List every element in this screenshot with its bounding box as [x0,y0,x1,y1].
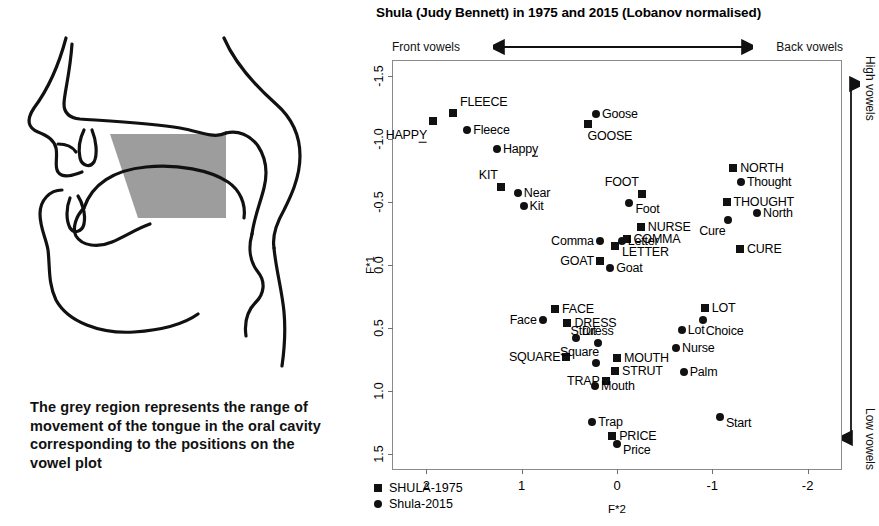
x-axis-tick-label: 0 [613,478,620,493]
front-back-arrow-icon [493,38,753,56]
point-label-mouth: Mouth [601,380,635,393]
y-axis-tick-label: 1.0 [372,382,386,399]
data-point-near [514,189,522,197]
data-point-goat [606,264,614,272]
data-point-mouth [591,382,599,390]
data-point-nurse [637,223,645,231]
data-point-happy [429,117,437,125]
point-label-square: SQUARE [509,351,561,364]
data-point-trap [588,418,596,426]
data-point-goat [596,257,604,265]
point-label-lot: Lot [688,324,705,337]
data-point-north [753,209,761,217]
point-label-comma: Comma [551,235,594,248]
legend-item-1975: SHULA-1975 [374,480,463,496]
x-axis-tick-mark [712,469,713,474]
data-point-north [729,164,737,172]
underlined-char: Y [419,128,427,143]
point-label-face: FACE [562,303,594,316]
point-label-north: NORTH [740,162,783,175]
plot-points-layer: HAPPYFLEECEKITGOOSEFOOTNORTHTHOUGHTCUREN… [393,61,841,469]
data-point-price [613,440,621,448]
data-point-lot [701,304,709,312]
x-axis-tick-mark [522,469,523,474]
point-label-kit: KIT [479,169,498,182]
x-axis-tick-mark [426,469,427,474]
grey-vowel-space-region [110,134,226,218]
upper-teeth-outline [79,130,96,165]
y-axis-tick-label: 0.5 [372,319,386,336]
vowel-plot-panel: Shula (Judy Bennett) in 1975 and 2015 (L… [360,0,879,526]
point-label-foot: Foot [635,203,659,216]
data-point-kit [520,202,528,210]
x-axis-tick-label: -1 [707,478,719,493]
y-axis-tick-mark [388,265,393,266]
data-point-strut [611,367,619,375]
data-point-palm [680,368,688,376]
point-label-price: Price [623,444,650,457]
y-axis-tick-label: -0.5 [372,191,386,213]
point-label-square: Square [560,346,599,359]
point-label-goose: GOOSE [587,130,632,143]
circle-marker-icon [374,500,382,508]
nasal-cavity-outline [64,44,226,135]
square-marker-icon [374,484,382,492]
point-label-north: North [763,207,793,220]
point-label-foot: FOOT [605,176,639,189]
data-point-happy [493,145,501,153]
y-axis-tick-label: -1.0 [372,128,386,150]
data-point-face [539,316,547,324]
point-label-strut: STRUT [622,365,663,378]
point-label-trap: Trap [598,416,622,429]
data-point-cure [736,245,744,253]
point-label-kit: Kit [530,200,544,213]
back-vowels-label: Back vowels [776,40,843,54]
point-label-thought: Thought [747,176,791,189]
plot-area: HAPPYFLEECEKITGOOSEFOOTNORTHTHOUGHTCUREN… [392,60,842,470]
point-label-nurse: Nurse [682,342,714,355]
data-point-lot [678,326,686,334]
chart-legend: SHULA-1975 Shula-2015 [374,480,463,512]
x-axis-tick-label: -2 [802,478,814,493]
point-label-letter: Letter [628,235,659,248]
y-axis-tick-mark [388,391,393,392]
data-point-start [716,413,724,421]
point-label-fleece: Fleece [473,124,509,137]
point-label-cure: CURE [747,242,782,255]
high-vowels-label: High vowels [863,56,877,121]
y-axis-tick-mark [388,328,393,329]
data-point-thought [723,198,731,206]
pharynx-wall-outline [245,234,263,336]
point-label-cure: Cure [699,224,725,237]
neck-outer-outline [274,248,285,366]
data-point-square [592,359,600,367]
low-vowels-label: Low vowels [863,408,877,470]
legend-item-2015: Shula-2015 [374,496,463,512]
data-point-mouth [613,354,621,362]
x-axis-tick-label: 1 [518,478,525,493]
y-axis-tick-mark [388,76,393,77]
data-point-goose [584,120,592,128]
point-label-goat: Goat [616,261,642,274]
point-label-start: Start [726,417,751,430]
point-label-face: Face [510,314,537,327]
point-label-fleece: FLEECE [460,95,507,108]
data-point-goose [592,110,600,118]
chart-title: Shula (Judy Bennett) in 1975 and 2015 (L… [376,5,879,20]
data-point-fleece [449,109,457,117]
y-axis-tick-mark [388,454,393,455]
underlined-char: y [532,142,538,157]
legend-label-1975: SHULA-1975 [389,482,463,495]
point-label-goat: GOAT [560,255,594,268]
y-axis-tick-label: 1.5 [372,445,386,462]
y-axis-tick-mark [388,202,393,203]
x-axis-tick-mark [617,469,618,474]
data-point-letter [618,237,626,245]
sagittal-vocal-tract-diagram [14,22,344,394]
data-point-face [551,305,559,313]
data-point-foot [638,190,646,198]
front-vowels-label: Front vowels [392,40,460,54]
data-point-fleece [463,126,471,134]
data-point-strut [594,339,602,347]
high-low-arrow-icon [842,72,860,450]
